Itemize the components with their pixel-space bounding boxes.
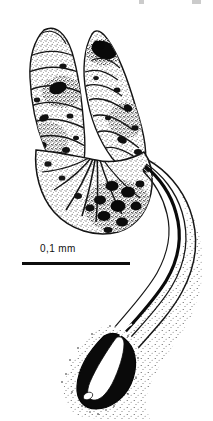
scale-bar-label: 0,1 mm	[40, 243, 76, 254]
scale-bar: 0,1 mm	[22, 243, 132, 269]
scale-bar-line	[22, 262, 130, 265]
figure-root: 0,1 mm	[0, 0, 213, 421]
anatomical-illustration	[0, 0, 213, 421]
basal-body	[36, 150, 153, 234]
right-lobe	[84, 31, 146, 173]
